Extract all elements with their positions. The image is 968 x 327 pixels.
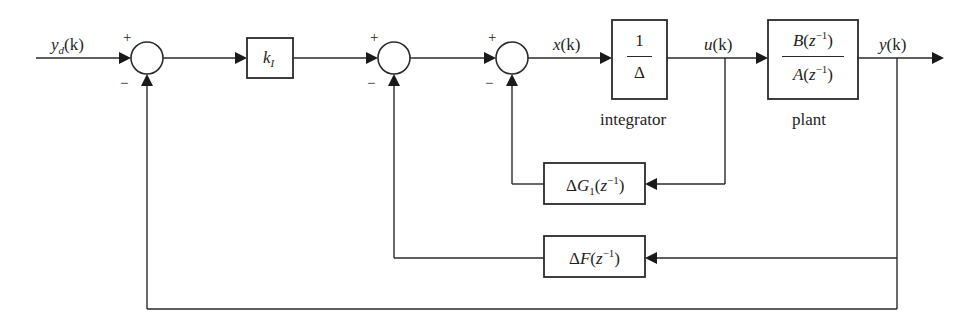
arrow-output [932, 52, 944, 64]
f-z: z [596, 249, 603, 268]
y-argument: (k) [887, 35, 907, 54]
plant-num-z: z [809, 31, 816, 50]
yd-symbol: y [51, 35, 59, 54]
signal-label-y: y(k) [879, 36, 906, 53]
feedback-g1-label: ΔG1(z−1) [566, 175, 624, 197]
g1-delta: Δ [566, 176, 577, 195]
plant-num-B: B [793, 31, 803, 50]
g1-exp: −1 [607, 174, 619, 186]
summing-junction-3 [496, 42, 528, 74]
plant-den-A: A [793, 65, 803, 84]
feedback-f-label: ΔF(z−1) [569, 248, 620, 267]
f-delta: Δ [569, 249, 580, 268]
integrator-transfer-function: 1 Δ [627, 30, 652, 83]
sum1-plus-sign: + [123, 30, 131, 45]
signal-label-yd: yd(k) [51, 36, 84, 56]
plant-num-close: ) [827, 31, 833, 50]
g1-close: ) [619, 176, 625, 195]
plant-numerator: B(z−1) [793, 28, 833, 51]
f-symbol: F [580, 249, 590, 268]
plant-den-exp: −1 [816, 63, 828, 75]
signal-label-u: u(k) [704, 36, 732, 53]
plant-denominator: A(z−1) [793, 62, 833, 85]
integrator-numerator: 1 [635, 30, 644, 51]
x-symbol: x [553, 35, 561, 54]
arrow-into-sum3-bottom [506, 74, 518, 86]
integrator-caption: integrator [600, 111, 666, 128]
plant-caption: plant [792, 111, 826, 128]
x-argument: (k) [561, 35, 581, 54]
y-symbol: y [879, 35, 887, 54]
yd-argument: (k) [64, 35, 84, 54]
plant-den-close: ) [827, 65, 833, 84]
arrow-into-f [645, 252, 657, 264]
f-exp: −1 [603, 247, 615, 259]
plant-fraction-bar [782, 56, 844, 57]
arrow-into-sum2-bottom [388, 74, 400, 86]
sum1-minus-sign: − [120, 76, 128, 91]
sum3-minus-sign: − [485, 76, 493, 91]
u-symbol: u [704, 35, 713, 54]
arrow-into-gain [235, 52, 247, 64]
sum2-plus-sign: + [370, 30, 378, 45]
plant-den-z: z [809, 65, 816, 84]
arrow-into-sum1-bottom [141, 74, 153, 86]
summing-junction-1 [131, 42, 163, 74]
sum2-minus-sign: − [367, 76, 375, 91]
plant-transfer-function: B(z−1) A(z−1) [782, 28, 844, 85]
arrow-into-sum1 [119, 52, 131, 64]
integrator-fraction-bar [627, 56, 652, 57]
sum3-plus-sign: + [488, 30, 496, 45]
gain-subscript: I [271, 57, 275, 69]
gain-symbol: k [263, 48, 271, 67]
arrow-into-sum3 [484, 52, 496, 64]
f-close: ) [614, 249, 620, 268]
plant-num-exp: −1 [816, 29, 828, 41]
arrow-into-plant [756, 52, 768, 64]
g1-symbol: G [577, 176, 589, 195]
arrow-into-g1 [645, 178, 657, 190]
arrow-into-sum2 [366, 52, 378, 64]
summing-junction-2 [378, 42, 410, 74]
u-argument: (k) [713, 35, 733, 54]
arrow-into-integrator [600, 52, 612, 64]
integrator-denominator: Δ [634, 62, 645, 83]
gain-label: kI [263, 49, 274, 69]
signal-label-x: x(k) [553, 36, 580, 53]
